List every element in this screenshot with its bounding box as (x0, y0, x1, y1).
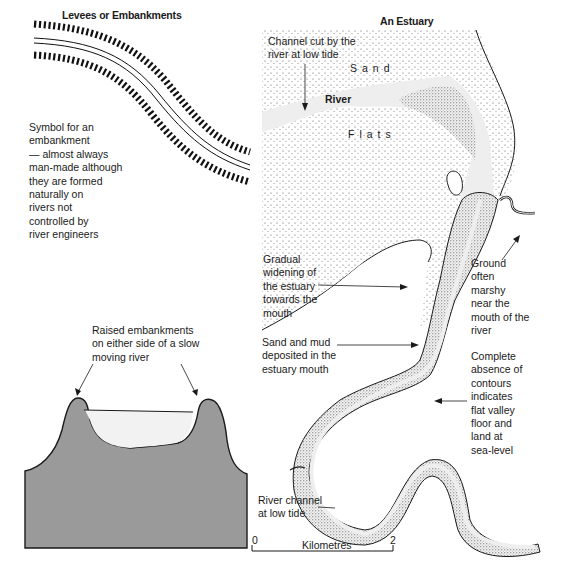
cross-section-caption: Raised embankments on either side of a s… (92, 324, 199, 364)
map-label-sand: Sand (350, 62, 395, 74)
arrow-icon (513, 235, 520, 243)
scale-start: 0 (252, 534, 258, 547)
levees-title: Levees or Embankments (62, 9, 182, 21)
annotation-marshy-ground: Ground often marshy near the mouth of th… (471, 257, 529, 337)
estuary-title: An Estuary (380, 15, 433, 27)
embankment-symbol-description: Symbol for an embankment — almost always… (29, 121, 122, 242)
embankment-cross-section (25, 364, 247, 548)
map-label-river: River (325, 93, 351, 105)
annotation-gradual-widening: Gradual widening of the estuary towards … (263, 253, 317, 320)
arrow-icon (75, 388, 81, 396)
arrow-icon (411, 342, 419, 348)
arrow-icon (192, 389, 198, 396)
annotation-no-contours: Complete absence of contours indicates f… (471, 350, 522, 457)
annotation-sand-mud: Sand and mud deposited in the estuary mo… (262, 336, 336, 376)
annotation-channel-cut: Channel cut by the river at low tide (268, 35, 356, 62)
annotation-low-tide-channel: River channel at low tide (258, 494, 322, 521)
arrow-icon (434, 398, 442, 404)
scale-end: 2 (390, 534, 396, 547)
scale-unit: Kilometres (302, 539, 352, 552)
map-label-flats: Flats (348, 128, 396, 140)
